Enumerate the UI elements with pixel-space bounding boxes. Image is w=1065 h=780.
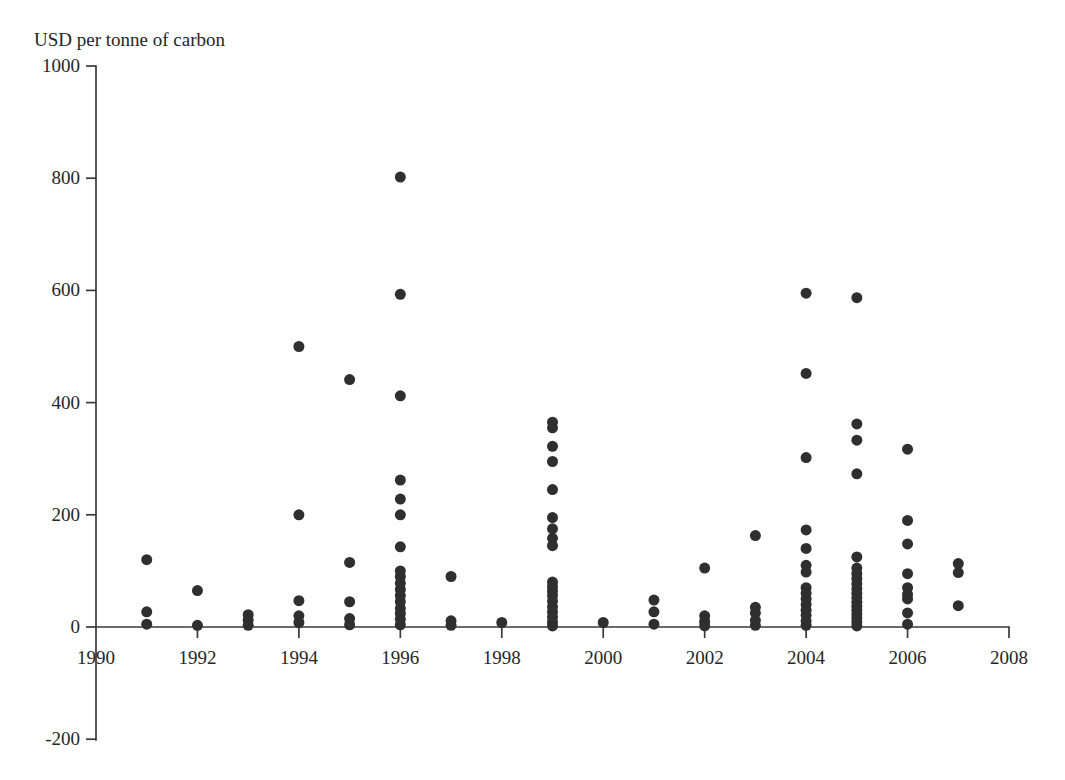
x-tick-label: 2000	[584, 647, 622, 668]
data-point	[851, 292, 862, 303]
data-point	[547, 456, 558, 467]
y-tick-label: 400	[52, 392, 81, 413]
y-tick-label: 800	[52, 167, 81, 188]
data-point	[851, 468, 862, 479]
data-point	[344, 619, 355, 630]
data-point	[293, 595, 304, 606]
x-tick-label: 1998	[483, 647, 521, 668]
data-point	[902, 619, 913, 630]
data-point	[395, 289, 406, 300]
data-point	[293, 341, 304, 352]
data-point	[395, 390, 406, 401]
data-point	[648, 595, 659, 606]
data-point	[547, 441, 558, 452]
data-point	[395, 619, 406, 630]
data-point	[547, 523, 558, 534]
data-point	[902, 607, 913, 618]
data-point	[395, 172, 406, 183]
data-point	[851, 620, 862, 631]
x-tick-label: 2004	[787, 647, 826, 668]
data-point	[801, 452, 812, 463]
scatter-chart: USD per tonne of carbon -200020040060080…	[0, 0, 1065, 780]
data-point	[851, 435, 862, 446]
data-point	[395, 475, 406, 486]
data-point	[801, 368, 812, 379]
data-point	[243, 620, 254, 631]
y-tick-label: -200	[45, 728, 80, 749]
data-point	[902, 568, 913, 579]
data-point	[902, 515, 913, 526]
y-axis-title: USD per tonne of carbon	[34, 29, 226, 50]
x-tick-label: 1990	[77, 647, 115, 668]
axis-lines	[96, 66, 1009, 740]
data-point	[801, 288, 812, 299]
data-point	[699, 620, 710, 631]
data-point	[699, 563, 710, 574]
data-point	[344, 374, 355, 385]
x-axis-ticks: 1990199219941996199820002002200420062008	[77, 627, 1028, 668]
data-point	[293, 617, 304, 628]
data-point	[801, 543, 812, 554]
y-axis-ticks: -20002004006008001000	[42, 55, 96, 749]
data-point	[395, 541, 406, 552]
data-point	[953, 567, 964, 578]
data-point	[192, 585, 203, 596]
data-point	[648, 619, 659, 630]
x-tick-label: 1992	[178, 647, 216, 668]
y-tick-label: 1000	[42, 55, 80, 76]
data-point	[801, 524, 812, 535]
data-point	[446, 620, 457, 631]
data-point	[902, 444, 913, 455]
data-point	[547, 512, 558, 523]
data-point	[192, 620, 203, 631]
data-point	[446, 571, 457, 582]
data-point	[141, 554, 152, 565]
data-point	[547, 484, 558, 495]
data-point-group	[141, 172, 964, 632]
y-tick-label: 200	[52, 504, 81, 525]
data-point	[851, 418, 862, 429]
data-point	[547, 540, 558, 551]
x-tick-label: 2006	[889, 647, 927, 668]
data-point	[496, 617, 507, 628]
data-point	[344, 596, 355, 607]
data-point	[801, 567, 812, 578]
plot-area: USD per tonne of carbon -200020040060080…	[0, 0, 1065, 780]
data-point	[953, 600, 964, 611]
data-point	[141, 606, 152, 617]
data-point	[141, 619, 152, 630]
data-point	[598, 617, 609, 628]
data-point	[344, 557, 355, 568]
x-tick-label: 1996	[381, 647, 419, 668]
data-point	[750, 530, 761, 541]
y-tick-label: 0	[71, 616, 81, 637]
data-point	[801, 620, 812, 631]
data-point	[547, 620, 558, 631]
data-point	[395, 494, 406, 505]
data-point	[851, 551, 862, 562]
data-point	[395, 509, 406, 520]
data-point	[293, 509, 304, 520]
data-point	[547, 422, 558, 433]
x-tick-label: 1994	[280, 647, 319, 668]
data-point	[750, 620, 761, 631]
data-point	[902, 593, 913, 604]
x-tick-label: 2008	[990, 647, 1028, 668]
data-point	[902, 538, 913, 549]
y-tick-label: 600	[52, 279, 81, 300]
data-point	[648, 606, 659, 617]
x-tick-label: 2002	[686, 647, 724, 668]
